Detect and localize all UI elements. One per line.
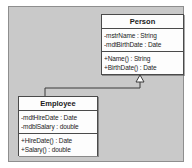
operations-compartment-person: +Name() : String +BirthDate() : Date xyxy=(102,52,183,74)
attribute-row: -mstrName : String xyxy=(104,31,183,40)
operation-row: +Salary() : double xyxy=(21,145,97,154)
attribute-row: -mdtBirthDate : Date xyxy=(104,40,183,49)
uml-class-diagram: Person -mstrName : String -mdtBirthDate … xyxy=(0,0,192,168)
attribute-row: -mdtHireDate : Date xyxy=(21,113,97,122)
operation-row: +Name() : String xyxy=(104,54,183,63)
operations-compartment-employee: +HireDate() : Date +Salary() : double xyxy=(19,134,97,156)
uml-class-person[interactable]: Person -mstrName : String -mdtBirthDate … xyxy=(101,14,184,75)
attributes-compartment-employee: -mdtHireDate : Date -mdblSalary : double xyxy=(19,111,97,134)
operation-row: +BirthDate() : Date xyxy=(104,63,183,72)
class-name-employee: Employee xyxy=(19,97,97,111)
attributes-compartment-person: -mstrName : String -mdtBirthDate : Date xyxy=(102,29,183,52)
operation-row: +HireDate() : Date xyxy=(21,136,97,145)
uml-class-employee[interactable]: Employee -mdtHireDate : Date -mdblSalary… xyxy=(18,96,98,156)
class-name-person: Person xyxy=(102,15,183,29)
attribute-row: -mdblSalary : double xyxy=(21,122,97,131)
